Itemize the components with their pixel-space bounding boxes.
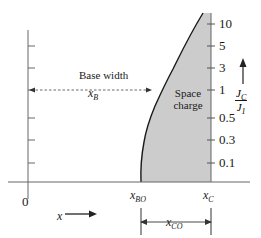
tick-label-0-3: 0.3 <box>219 133 235 147</box>
space-charge-label: Space charge <box>170 88 206 111</box>
base-width-label: Base width <box>79 70 128 82</box>
tick-label-5: 5 <box>219 39 226 53</box>
jc-j1-up-arrow <box>240 58 247 84</box>
x-bo-label: xBO <box>130 186 146 203</box>
tick-label-1: 1 <box>219 83 226 97</box>
x-axis-label: x <box>57 207 62 224</box>
origin-label-zero: 0 <box>22 195 29 209</box>
x-axis-arrow <box>65 211 97 218</box>
space-charge-line-1: Space <box>175 87 201 99</box>
x-co-label: xCO <box>166 213 182 230</box>
j1-denominator: J1 <box>234 101 248 113</box>
tick-label-3: 3 <box>219 61 226 75</box>
x-c-label: xC <box>203 186 214 203</box>
left-axis-ticks <box>28 46 35 163</box>
tick-label-10: 10 <box>219 17 232 31</box>
jc-over-j1-axis-label: JC J1 <box>234 88 248 113</box>
space-charge-diagram: 10 5 3 1 0.5 0.3 0.1 JC J1 Base width xB… <box>0 0 261 238</box>
space-charge-line-2: charge <box>173 99 202 111</box>
jc-numerator: JC <box>234 88 248 100</box>
tick-label-0-5: 0.5 <box>219 111 235 125</box>
tick-label-0-1: 0.1 <box>219 156 235 170</box>
x-b-symbol: xB <box>88 84 98 101</box>
